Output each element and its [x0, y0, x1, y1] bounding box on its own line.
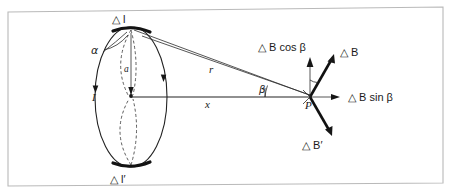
loop-radius-line: [128, 33, 133, 95]
label-delta-B-prime: △ B′: [302, 139, 322, 151]
label-distance-r: r: [209, 63, 214, 75]
diagram-canvas: △ l △ l′ α a I r x β P △ B cos β △ B △ B…: [0, 0, 450, 191]
label-delta-B-cos-beta: △ B cos β: [258, 41, 306, 53]
label-delta-B-sin-beta: △ B sin β: [348, 91, 393, 103]
physics-diagram-figure: △ l △ l′ α a I r x β P △ B cos β △ B △ B…: [0, 0, 450, 191]
label-delta-l-bottom: △ l′: [110, 173, 126, 185]
label-current-I: I: [91, 91, 97, 103]
vector-delta-B-prime: [310, 97, 333, 136]
label-delta-B: △ B: [340, 46, 358, 58]
label-beta-angle: β: [258, 84, 266, 95]
vector-delta-B: [310, 54, 335, 97]
label-alpha-angle: α: [91, 44, 99, 57]
label-radius-a: a: [124, 64, 129, 74]
label-point-P: P: [304, 99, 312, 111]
vector-delta-B-sin-beta: [310, 94, 340, 100]
label-distance-x: x: [204, 98, 210, 110]
alpha-angle-leader: [103, 32, 128, 52]
label-delta-l-top: △ l: [112, 13, 126, 25]
